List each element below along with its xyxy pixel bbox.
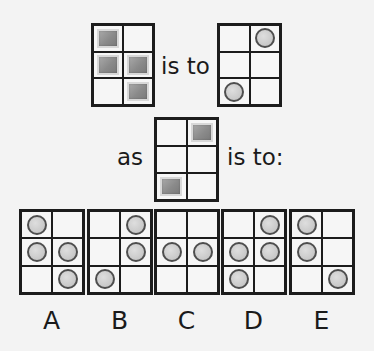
option-b-label[interactable]: B	[87, 308, 152, 333]
grid-cell	[90, 212, 119, 237]
grid-cell	[53, 239, 82, 264]
option-c-label[interactable]: C	[154, 308, 219, 333]
source-grid	[91, 23, 155, 107]
shaded-square-icon	[191, 123, 213, 143]
grid-cell	[124, 79, 152, 104]
option-c-grid[interactable]	[154, 209, 220, 295]
grid-cell	[323, 267, 352, 292]
is-to-colon-text: is to:	[227, 146, 284, 169]
grid-cell	[220, 26, 249, 51]
circle-icon	[58, 242, 78, 262]
circle-icon	[255, 28, 275, 48]
grid-cell	[157, 174, 186, 199]
circle-icon	[58, 269, 78, 289]
grid-cell	[188, 147, 217, 172]
shaded-square-icon	[127, 55, 149, 74]
grid-cell	[22, 239, 51, 264]
grid-cell	[22, 267, 51, 292]
grid-cell	[124, 53, 152, 78]
grid-cell	[94, 26, 122, 51]
option-e-label[interactable]: E	[289, 308, 354, 333]
circle-icon	[162, 242, 182, 262]
grid-cell	[323, 212, 352, 237]
grid-cell	[94, 53, 122, 78]
circle-icon	[229, 242, 249, 262]
circle-icon	[297, 242, 317, 262]
grid-cell	[188, 267, 217, 292]
shaded-square-icon	[127, 82, 149, 101]
grid-cell	[255, 239, 284, 264]
is-to-text: is to	[161, 55, 210, 78]
grid-cell	[22, 212, 51, 237]
shaded-square-icon	[160, 177, 182, 197]
option-a-grid[interactable]	[19, 209, 85, 295]
grid-cell	[188, 212, 217, 237]
grid-cell	[121, 239, 150, 264]
circle-icon	[27, 215, 47, 235]
grid-cell	[251, 53, 280, 78]
option-d-grid[interactable]	[221, 209, 287, 295]
grid-cell	[53, 267, 82, 292]
grid-cell	[292, 212, 321, 237]
grid-cell	[94, 79, 122, 104]
option-a-label[interactable]: A	[19, 308, 84, 333]
circle-icon	[95, 269, 115, 289]
option-b-grid[interactable]	[87, 209, 153, 295]
target-grid	[154, 117, 219, 202]
grid-cell	[157, 212, 186, 237]
circle-icon	[224, 82, 244, 102]
grid-cell	[90, 267, 119, 292]
grid-cell	[224, 267, 253, 292]
grid-cell	[292, 239, 321, 264]
circle-icon	[297, 215, 317, 235]
option-d-label[interactable]: D	[221, 308, 286, 333]
grid-cell	[53, 212, 82, 237]
grid-cell	[188, 239, 217, 264]
circle-icon	[229, 269, 249, 289]
circle-icon	[27, 242, 47, 262]
grid-cell	[255, 212, 284, 237]
grid-cell	[220, 79, 249, 104]
grid-cell	[251, 79, 280, 104]
grid-cell	[224, 212, 253, 237]
grid-cell	[121, 267, 150, 292]
circle-icon	[260, 215, 280, 235]
grid-cell	[157, 120, 186, 145]
grid-cell	[292, 267, 321, 292]
grid-cell	[224, 239, 253, 264]
source-result-grid	[217, 23, 282, 107]
grid-cell	[90, 239, 119, 264]
grid-cell	[124, 26, 152, 51]
circle-icon	[126, 215, 146, 235]
circle-icon	[328, 269, 348, 289]
grid-cell	[157, 239, 186, 264]
grid-cell	[188, 120, 217, 145]
grid-cell	[323, 239, 352, 264]
option-e-grid[interactable]	[289, 209, 355, 295]
circle-icon	[126, 242, 146, 262]
circle-icon	[193, 242, 213, 262]
circle-icon	[260, 242, 280, 262]
grid-cell	[220, 53, 249, 78]
as-text: as	[117, 146, 143, 169]
grid-cell	[121, 212, 150, 237]
grid-cell	[251, 26, 280, 51]
grid-cell	[157, 147, 186, 172]
shaded-square-icon	[97, 29, 119, 48]
grid-cell	[255, 267, 284, 292]
shaded-square-icon	[97, 55, 119, 74]
grid-cell	[188, 174, 217, 199]
grid-cell	[157, 267, 186, 292]
